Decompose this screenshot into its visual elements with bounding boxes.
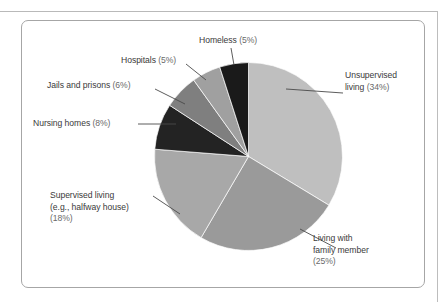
leader-line-homeless	[231, 48, 234, 65]
pie-label-hospitals-text: Hospitals	[121, 55, 158, 65]
pie-label-supervised-percent: (18%)	[50, 213, 129, 225]
pie-label-unsupervised-line1: Unsupervised	[345, 70, 397, 82]
pie-label-supervised-line2: (e.g., halfway house)	[50, 202, 129, 214]
figure-page: Homeless (5%) Hospitals (5%) Jails and p…	[0, 0, 445, 302]
pie-label-homeless-percent: (5%)	[239, 35, 257, 45]
pie-label-hospitals-percent: (5%)	[158, 55, 176, 65]
pie-label-jails-percent: (6%)	[113, 80, 131, 90]
pie-label-jails-and-prisons: Jails and prisons (6%)	[47, 80, 130, 92]
pie-label-hospitals: Hospitals (5%)	[121, 55, 176, 67]
pie-label-nursing-percent: (8%)	[92, 118, 110, 128]
pie-label-nursing-homes: Nursing homes (8%)	[33, 118, 110, 130]
pie-chart: Homeless (5%) Hospitals (5%) Jails and p…	[0, 0, 445, 302]
pie-label-supervised-line1: Supervised living	[50, 190, 129, 202]
pie-label-living-with-family: Living with family member (25%)	[313, 233, 369, 268]
pie-label-family-line2: family member	[313, 245, 369, 257]
pie-label-family-line1: Living with	[313, 233, 369, 245]
pie-label-homeless: Homeless (5%)	[199, 35, 257, 47]
pie-label-nursing-text: Nursing homes	[33, 118, 92, 128]
pie-label-family-percent: (25%)	[313, 256, 369, 268]
pie-label-unsupervised-line2: living (34%)	[345, 82, 397, 94]
pie-label-unsupervised-line2-text: living	[345, 82, 367, 92]
pie-label-homeless-text: Homeless	[199, 35, 239, 45]
leader-line-hospitals	[186, 64, 206, 80]
pie-label-unsupervised-percent: (34%)	[367, 82, 390, 92]
pie-label-jails-text: Jails and prisons	[47, 80, 113, 90]
pie-label-supervised-living: Supervised living (e.g., halfway house) …	[50, 190, 129, 225]
pie-label-unsupervised-living: Unsupervised living (34%)	[345, 70, 397, 93]
